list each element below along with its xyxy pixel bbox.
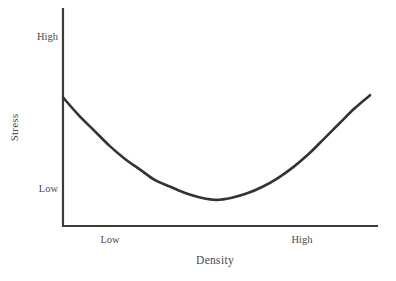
- chart-figure: High Low Stress Low High Density: [0, 0, 396, 281]
- x-axis-title: Density: [165, 255, 265, 267]
- y-tick-label-low: Low: [39, 184, 58, 195]
- y-tick-label-high: High: [37, 32, 58, 43]
- x-tick-label-low: Low: [90, 235, 130, 246]
- x-tick-label-high: High: [281, 235, 323, 246]
- chart-canvas: [0, 0, 396, 281]
- y-axis-title-text: Stress: [9, 108, 20, 148]
- chart-background: [0, 0, 396, 281]
- y-axis-title: Stress: [0, 96, 28, 160]
